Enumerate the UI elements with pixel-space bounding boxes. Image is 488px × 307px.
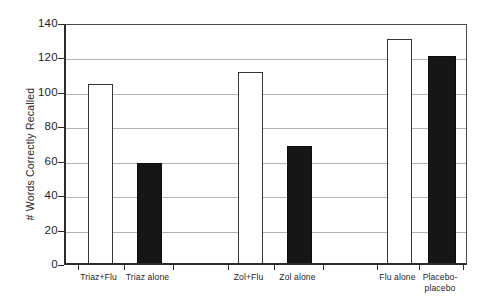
x-axis-tick xyxy=(274,265,275,270)
y-axis-tick-label: 20 xyxy=(12,224,58,236)
bar-chart: # Words Correctly Recalled 0204060801001… xyxy=(0,0,488,307)
x-axis-tick xyxy=(228,265,229,270)
bar xyxy=(238,72,263,263)
plot-area xyxy=(64,24,467,265)
bar xyxy=(387,39,412,263)
x-axis-tick xyxy=(78,265,79,270)
y-axis-tick-label: 120 xyxy=(12,51,58,63)
x-axis-tick xyxy=(173,265,174,270)
y-axis-tick-label: 60 xyxy=(12,155,58,167)
x-axis-tick xyxy=(124,265,125,270)
bar xyxy=(88,84,113,263)
y-axis-tick-label: 80 xyxy=(12,120,58,132)
x-axis-tick xyxy=(419,265,420,270)
y-axis-tick-label: 40 xyxy=(12,189,58,201)
y-axis-tick-label: 100 xyxy=(12,86,58,98)
x-axis-label: Placebo- placebo xyxy=(402,272,478,293)
y-axis-tick xyxy=(58,265,64,266)
x-axis-tick xyxy=(463,265,464,270)
x-axis-tick xyxy=(377,265,378,270)
x-axis-label: Triaz alone xyxy=(110,272,186,283)
x-axis-label: Zol alone xyxy=(260,272,336,283)
x-axis-tick xyxy=(323,265,324,270)
bar xyxy=(428,56,456,263)
y-axis-tick-label: 140 xyxy=(12,17,58,29)
y-axis-tick-label: 0 xyxy=(12,258,58,270)
bar xyxy=(137,163,162,263)
bar xyxy=(287,146,312,263)
